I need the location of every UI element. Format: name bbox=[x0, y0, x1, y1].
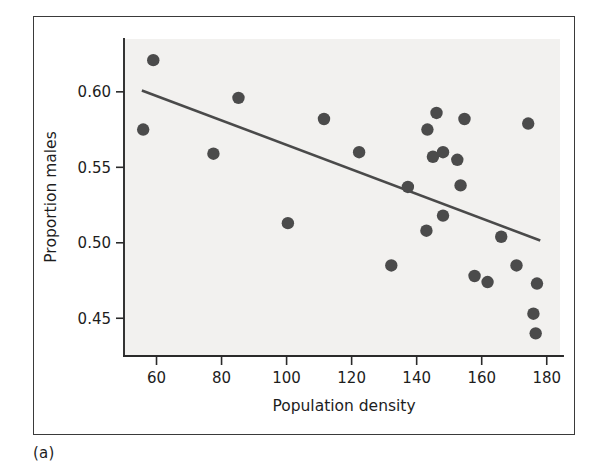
figure-panel: 0.450.500.550.60 6080100120140160180 Pop… bbox=[0, 0, 604, 467]
data-point bbox=[510, 259, 522, 271]
plot-area-background bbox=[124, 39, 560, 355]
data-point bbox=[529, 327, 541, 339]
data-point bbox=[522, 117, 534, 129]
data-point bbox=[420, 225, 432, 237]
x-axis-ticks: 6080100120140160180 bbox=[147, 356, 561, 387]
data-point bbox=[207, 148, 219, 160]
data-point bbox=[454, 179, 466, 191]
data-point bbox=[527, 308, 539, 320]
figure-border: 0.450.500.550.60 6080100120140160180 Pop… bbox=[33, 16, 575, 435]
data-point bbox=[385, 259, 397, 271]
y-axis-title: Proportion males bbox=[42, 131, 60, 262]
data-point bbox=[137, 123, 149, 135]
data-point bbox=[353, 146, 365, 158]
data-point bbox=[430, 107, 442, 119]
x-axis-title: Population density bbox=[272, 397, 415, 415]
data-point bbox=[421, 123, 433, 135]
y-tick-label: 0.50 bbox=[78, 234, 111, 252]
data-point bbox=[481, 276, 493, 288]
x-tick-label: 100 bbox=[272, 369, 301, 387]
x-tick-label: 160 bbox=[467, 369, 496, 387]
data-point bbox=[282, 217, 294, 229]
data-point bbox=[495, 231, 507, 243]
data-point bbox=[437, 209, 449, 221]
panel-label: (a) bbox=[33, 444, 55, 462]
data-point bbox=[531, 277, 543, 289]
y-tick-label: 0.60 bbox=[78, 83, 111, 101]
data-point bbox=[232, 92, 244, 104]
x-tick-label: 60 bbox=[147, 369, 166, 387]
scatter-plot: 0.450.500.550.60 6080100120140160180 Pop… bbox=[34, 17, 573, 433]
x-tick-label: 180 bbox=[532, 369, 561, 387]
data-point bbox=[402, 181, 414, 193]
data-point bbox=[458, 113, 470, 125]
data-point bbox=[318, 113, 330, 125]
x-tick-label: 80 bbox=[212, 369, 231, 387]
x-tick-label: 140 bbox=[402, 369, 431, 387]
data-point bbox=[437, 146, 449, 158]
data-point bbox=[451, 154, 463, 166]
y-tick-label: 0.45 bbox=[78, 310, 111, 328]
data-point bbox=[468, 270, 480, 282]
y-tick-label: 0.55 bbox=[78, 159, 111, 177]
y-axis-ticks: 0.450.500.550.60 bbox=[78, 83, 124, 327]
data-point bbox=[147, 54, 159, 66]
x-tick-label: 120 bbox=[337, 369, 366, 387]
